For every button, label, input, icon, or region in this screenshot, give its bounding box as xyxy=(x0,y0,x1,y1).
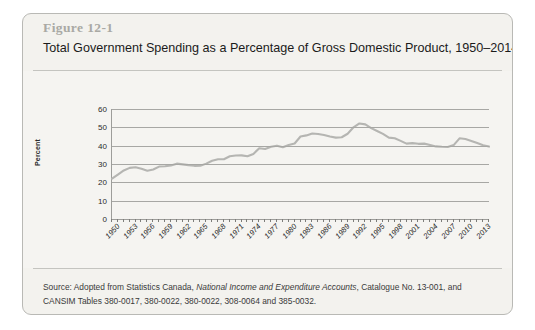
x-tick-label: 1956 xyxy=(139,222,157,241)
source-publication-title: National Income and Expenditure Accounts xyxy=(196,282,356,292)
x-tick-label: 2004 xyxy=(422,222,440,241)
x-tick-label: 2007 xyxy=(439,222,457,241)
x-tick-label: 1959 xyxy=(156,222,174,241)
y-axis-tick-labels: 0102030405060 xyxy=(83,109,107,219)
x-tick-label: 1974 xyxy=(245,222,263,241)
x-tick-label: 1962 xyxy=(174,222,192,241)
x-tick-label: 2010 xyxy=(457,222,475,241)
x-tick-label: 1965 xyxy=(192,222,210,241)
y-tick-label: 20 xyxy=(83,178,107,187)
x-tick-label: 1977 xyxy=(263,222,281,241)
x-tick-label: 1953 xyxy=(121,222,139,241)
figure-number: Figure 12-1 xyxy=(43,20,496,36)
gridline xyxy=(112,127,489,128)
y-tick-label: 10 xyxy=(83,196,107,205)
y-axis-title: Percent xyxy=(34,123,41,183)
x-tick-label: 1998 xyxy=(386,222,404,241)
x-tick xyxy=(488,219,489,222)
x-tick-label: 1992 xyxy=(351,222,369,241)
y-tick-label: 30 xyxy=(83,160,107,169)
figure-header: Figure 12-1 Total Government Spending as… xyxy=(23,14,512,69)
y-tick-label: 40 xyxy=(83,141,107,150)
x-tick-label: 2001 xyxy=(404,222,422,241)
source-note: Source: Adopted from Statistics Canada, … xyxy=(43,280,494,308)
gridline xyxy=(112,182,489,183)
source-prefix: Source: Adopted from Statistics Canada, xyxy=(43,282,196,292)
x-tick-label: 1983 xyxy=(298,222,316,241)
x-axis-tick-labels: 1950195319561959196219651968197119741977… xyxy=(111,222,488,264)
y-tick-label: 50 xyxy=(83,123,107,132)
source-divider xyxy=(33,268,502,269)
figure-card: Figure 12-1 Total Government Spending as… xyxy=(22,13,513,315)
gridline xyxy=(112,201,489,202)
x-tick-label: 1950 xyxy=(103,222,121,241)
gridline xyxy=(112,146,489,147)
source-suffix: , Catalogue No. 13-001, and xyxy=(356,282,461,292)
plot-area xyxy=(111,109,489,220)
x-tick-label: 1968 xyxy=(210,222,228,241)
gridline xyxy=(112,164,489,165)
chart-plot-region: Percent 0102030405060 195019531956195919… xyxy=(23,71,512,268)
x-tick-label: 1986 xyxy=(316,222,334,241)
x-tick-label: 1971 xyxy=(227,222,245,241)
spending-line xyxy=(112,123,489,178)
x-tick-label: 1995 xyxy=(369,222,387,241)
gridline xyxy=(112,109,489,110)
y-tick-label: 0 xyxy=(83,215,107,224)
x-tick-label: 2013 xyxy=(475,222,493,241)
source-line-2: CANSIM Tables 380-0017, 380-0022, 380-00… xyxy=(43,296,316,306)
x-tick-label: 1989 xyxy=(333,222,351,241)
figure-title: Total Government Spending as a Percentag… xyxy=(43,39,496,57)
y-tick-label: 60 xyxy=(83,105,107,114)
x-tick-label: 1980 xyxy=(280,222,298,241)
